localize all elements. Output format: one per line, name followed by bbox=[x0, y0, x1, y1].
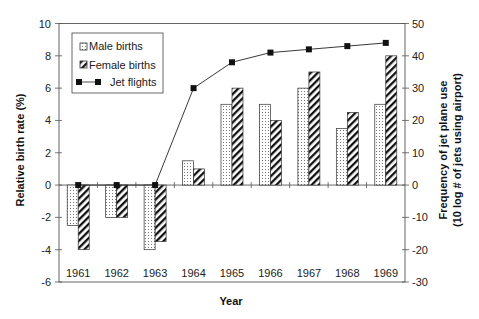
y2-tick-label: -20 bbox=[412, 244, 428, 256]
y-tick-label: -4 bbox=[41, 244, 51, 256]
bar-male-births-1966 bbox=[259, 104, 270, 185]
legend-label-female: Female births bbox=[89, 59, 156, 71]
bar-female-births-1965 bbox=[232, 88, 243, 185]
bar-female-births-1966 bbox=[270, 120, 281, 185]
y2-tick-label: 10 bbox=[412, 147, 424, 159]
jet-flights-marker-1961 bbox=[75, 182, 81, 188]
y2-tick-label: 0 bbox=[412, 179, 418, 191]
x-tick-label: 1966 bbox=[258, 267, 282, 279]
x-tick-label: 1963 bbox=[143, 267, 167, 279]
bar-female-births-1962 bbox=[117, 185, 128, 217]
y-tick-label: 4 bbox=[45, 114, 51, 126]
bar-male-births-1961 bbox=[67, 185, 78, 225]
legend-item-female: Female births bbox=[80, 59, 156, 71]
bar-male-births-1968 bbox=[336, 129, 347, 186]
y2-tick-label: 30 bbox=[412, 82, 424, 94]
jet-flights-marker-1963 bbox=[152, 182, 158, 188]
bar-male-births-1969 bbox=[375, 104, 386, 185]
y-tick-label: 2 bbox=[45, 147, 51, 159]
bar-male-births-1967 bbox=[298, 88, 309, 185]
x-tick-label: 1961 bbox=[66, 267, 90, 279]
x-tick-label: 1964 bbox=[181, 267, 205, 279]
bar-female-births-1967 bbox=[309, 72, 320, 185]
y-tick-label: -6 bbox=[41, 276, 51, 288]
legend-marker-jet-right bbox=[95, 79, 101, 85]
bar-female-births-1964 bbox=[194, 169, 205, 185]
x-tick-label: 1962 bbox=[104, 267, 128, 279]
x-tick-label: 1967 bbox=[297, 267, 321, 279]
bar-female-births-1968 bbox=[347, 112, 358, 185]
jet-flights-marker-1966 bbox=[267, 50, 273, 56]
jet-flights-marker-1969 bbox=[383, 40, 389, 46]
y2-axis-title-line1: Frequency of jet plane use bbox=[437, 81, 449, 220]
legend-label-male: Male births bbox=[89, 40, 143, 52]
y-tick-label: -2 bbox=[41, 211, 51, 223]
combo-chart: 1961196219631964196519661967196819691086… bbox=[0, 0, 479, 319]
bar-female-births-1961 bbox=[78, 185, 89, 250]
legend-label-jet: Jet flights bbox=[110, 76, 157, 88]
legend-marker-jet-left bbox=[76, 79, 82, 85]
x-tick-label: 1965 bbox=[220, 267, 244, 279]
jet-flights-marker-1962 bbox=[114, 182, 120, 188]
y2-tick-label: 20 bbox=[412, 114, 424, 126]
bar-female-births-1963 bbox=[155, 185, 166, 242]
y2-tick-label: 40 bbox=[412, 50, 424, 62]
y-tick-label: 6 bbox=[45, 82, 51, 94]
x-tick-label: 1969 bbox=[374, 267, 398, 279]
bar-male-births-1965 bbox=[221, 104, 232, 185]
bar-male-births-1962 bbox=[106, 185, 117, 217]
bar-male-births-1964 bbox=[183, 161, 194, 185]
jet-flights-marker-1964 bbox=[191, 85, 197, 91]
legend-item-male: Male births bbox=[80, 40, 143, 52]
legend-swatch-male bbox=[80, 43, 87, 50]
bar-female-births-1969 bbox=[386, 56, 397, 185]
legend: Male births Female births Jet flights bbox=[72, 33, 163, 93]
jet-flights-marker-1967 bbox=[306, 46, 312, 52]
x-tick-label: 1968 bbox=[335, 267, 359, 279]
y-tick-label: 0 bbox=[45, 179, 51, 191]
y-tick-label: 10 bbox=[39, 18, 51, 30]
jet-flights-marker-1965 bbox=[229, 59, 235, 65]
y2-axis-title-line2: (10 log # of jets using airport) bbox=[451, 73, 463, 227]
legend-swatch-female bbox=[80, 61, 87, 68]
y2-tick-label: -30 bbox=[412, 276, 428, 288]
x-axis-title: Year bbox=[219, 295, 243, 307]
y2-tick-label: -10 bbox=[412, 211, 428, 223]
y2-tick-label: 50 bbox=[412, 18, 424, 30]
y-tick-label: 8 bbox=[45, 50, 51, 62]
jet-flights-marker-1968 bbox=[344, 43, 350, 49]
y-axis-title: Relative birth rate (%) bbox=[14, 93, 26, 206]
bar-male-births-1963 bbox=[144, 185, 155, 250]
